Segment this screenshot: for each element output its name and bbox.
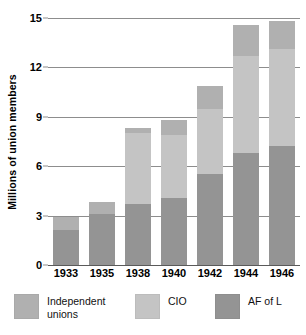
x-tick-label-1946: 1946 (264, 268, 300, 279)
bar-segment-1933-independent-unions (53, 217, 79, 230)
gridline-15 (48, 18, 300, 19)
bar-segment-1944-cio (233, 56, 259, 153)
y-tick-mark-9 (43, 116, 48, 117)
y-tick-label-15: 15 (30, 13, 42, 24)
legend-swatch-af-of-l (215, 294, 240, 319)
bar-1940 (161, 120, 187, 265)
gridline-9 (48, 117, 300, 118)
bar-1942 (197, 86, 223, 265)
y-tick-label-0: 0 (36, 260, 42, 271)
y-axis-title-label: Millions of union members (6, 74, 18, 210)
y-tick-mark-6 (43, 166, 48, 167)
x-tick-label-1938: 1938 (120, 268, 156, 279)
bar-segment-1946-af-of-l (269, 146, 295, 265)
bar-1938 (125, 128, 151, 265)
legend-item-af-of-l: AF of L (215, 294, 282, 319)
bar-segment-1938-cio (125, 133, 151, 204)
y-tick-mark-12 (43, 67, 48, 68)
bar-segment-1940-cio (161, 135, 187, 198)
gridline-12 (48, 67, 300, 68)
y-tick-label-12: 12 (30, 62, 42, 73)
bar-segment-1942-af-of-l (197, 174, 223, 265)
bar-segment-1935-af-of-l (89, 214, 115, 265)
y-tick-label-3: 3 (36, 210, 42, 221)
legend-item-cio: CIO (135, 294, 187, 319)
bar-segment-1946-cio (269, 49, 295, 146)
bar-segment-1942-independent-unions (197, 86, 223, 109)
legend-label-af-of-l: AF of L (248, 294, 282, 308)
y-axis-title: Millions of union members (4, 18, 20, 265)
legend-swatch-independent-unions (14, 294, 39, 319)
y-tick-mark-0 (43, 265, 48, 266)
bar-segment-1942-cio (197, 109, 223, 175)
legend-item-independent-unions: Independent unions (14, 294, 105, 320)
bar-1935 (89, 202, 115, 265)
plot-area: 03691215 (48, 18, 300, 265)
legend-swatch-cio (135, 294, 160, 319)
y-tick-label-9: 9 (36, 111, 42, 122)
bar-segment-1935-independent-unions (89, 202, 115, 214)
bar-segment-1933-af-of-l (53, 230, 79, 265)
bar-1933 (53, 217, 79, 265)
x-tick-label-1942: 1942 (192, 268, 228, 279)
gridline-0 (48, 265, 300, 266)
bar-1946 (269, 21, 295, 265)
bar-segment-1938-af-of-l (125, 204, 151, 265)
x-tick-label-1933: 1933 (48, 268, 84, 279)
chart-legend: Independent unions CIO AF of L (0, 292, 306, 335)
x-tick-label-1944: 1944 (228, 268, 264, 279)
x-tick-label-1935: 1935 (84, 268, 120, 279)
bar-segment-1940-af-of-l (161, 198, 187, 266)
y-tick-mark-3 (43, 215, 48, 216)
legend-label-independent-unions: Independent unions (47, 294, 105, 320)
y-tick-mark-15 (43, 18, 48, 19)
bar-segment-1940-independent-unions (161, 120, 187, 135)
y-tick-label-6: 6 (36, 161, 42, 172)
bar-segment-1944-af-of-l (233, 153, 259, 265)
x-tick-label-1940: 1940 (156, 268, 192, 279)
bar-segment-1946-independent-unions (269, 21, 295, 49)
legend-label-cio: CIO (168, 294, 187, 308)
union-membership-stacked-bar-chart: Millions of union members 03691215 Indep… (0, 0, 306, 335)
bar-segment-1944-independent-unions (233, 25, 259, 56)
bar-1944 (233, 25, 259, 265)
